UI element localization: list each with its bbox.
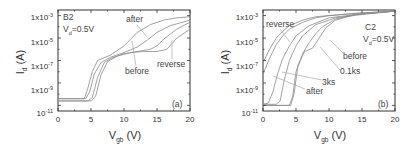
ylabel-b: Id (A) (219, 50, 233, 74)
xtick-b-0: 0 (261, 115, 266, 124)
ytick-b-2: 1x10-7 (236, 61, 258, 71)
xtick-a-3: 15 (153, 115, 162, 124)
leader-after-b (273, 76, 305, 89)
label-reverse-b: reverse (266, 19, 295, 29)
xlabel-a: Vgb (V) (109, 129, 141, 144)
label-after-a: after (126, 14, 143, 24)
xtick-a-0: 0 (56, 115, 61, 124)
ytick-b-0: 1x10-3 (236, 12, 258, 22)
ytick-a-1: 1x10-5 (31, 37, 53, 47)
xtick-b-3: 15 (358, 115, 367, 124)
leader-before-b (330, 40, 344, 54)
leader-before-a (132, 41, 136, 66)
sample-label-a: B2 (63, 12, 74, 22)
ytick-a-0: 1x10-3 (31, 12, 53, 22)
xtick-a-1: 5 (89, 115, 94, 124)
figure: 1x10-3 1x10-5 1x10-7 1x10-9 10-11 0 5 10… (0, 0, 414, 151)
ytick-b-4: 10-11 (242, 108, 258, 118)
label-reverse-a: reverse (157, 59, 186, 69)
sample-label-b: C2 (365, 22, 376, 32)
panel-b: 1x10-3 1x10-5 1x10-7 1x10-9 10-11 0 5 10… (219, 10, 400, 144)
panel-a: 1x10-3 1x10-5 1x10-7 1x10-9 10-11 0 5 10… (14, 10, 195, 144)
vd-label-a: Vd=0.5V (63, 24, 95, 36)
panel-tag-a: (a) (172, 99, 183, 109)
xtick-a-4: 20 (186, 115, 195, 124)
xtick-b-2: 10 (325, 115, 334, 124)
ytick-a-4: 10-11 (37, 108, 53, 118)
leader-3ks-b (282, 72, 322, 80)
label-01ks-b: 0.1ks (340, 66, 360, 76)
label-before-a: before (125, 66, 149, 76)
xlabel-b: Vgb (V) (314, 129, 346, 144)
ytick-b-1: 1x10-5 (236, 37, 258, 47)
vd-label-b: Vd=0.5V (363, 34, 395, 46)
label-after-b: after (306, 86, 323, 96)
leader-reverse-b (280, 29, 290, 42)
label-3ks-b: 3ks (322, 77, 335, 87)
ytick-a-2: 1x10-7 (31, 61, 53, 71)
xtick-b-1: 5 (294, 115, 299, 124)
xtick-a-2: 10 (120, 115, 129, 124)
label-before-b: before (343, 51, 367, 61)
panel-tag-b: (b) (378, 99, 389, 109)
leader-after-a (137, 25, 147, 37)
leader-01ks-b (320, 47, 340, 70)
ytick-b-3: 1x10-9 (236, 85, 258, 95)
ylabel-a: Id (A) (14, 50, 28, 74)
ytick-a-3: 1x10-9 (31, 85, 53, 95)
xtick-b-4: 20 (391, 115, 400, 124)
